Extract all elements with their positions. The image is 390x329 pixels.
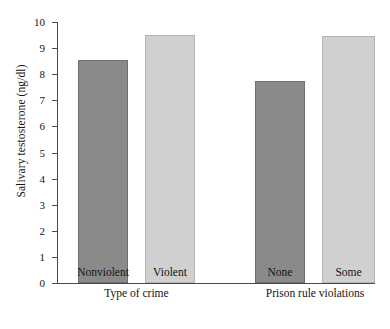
y-tick: 2: [52, 231, 57, 232]
y-tick-label: 9: [40, 43, 46, 54]
y-tick-label: 3: [40, 199, 46, 210]
group-label-1: Prison rule violations: [266, 287, 364, 299]
category-label-none: None: [268, 266, 293, 278]
bar-chart: Salivary testosterone (ng/dl) 0123456789…: [0, 0, 390, 329]
group-label-0: Type of crime: [104, 287, 168, 299]
y-axis-line: [57, 22, 58, 283]
y-tick: 0: [52, 283, 57, 284]
category-label-some: Some: [335, 266, 361, 278]
bar-violent: [145, 35, 195, 283]
y-tick: 4: [52, 179, 57, 180]
y-tick: 3: [52, 205, 57, 206]
y-tick: 6: [52, 126, 57, 127]
y-tick-label: 0: [40, 278, 46, 289]
y-tick: 5: [52, 153, 57, 154]
y-tick-label: 8: [40, 69, 46, 80]
bar-some: [322, 36, 375, 283]
y-tick: 8: [52, 74, 57, 75]
y-tick-label: 10: [34, 17, 45, 28]
y-tick-label: 2: [40, 225, 46, 236]
y-tick: 9: [52, 48, 57, 49]
category-label-nonviolent: Nonviolent: [77, 266, 129, 278]
y-tick-label: 5: [40, 147, 46, 158]
y-tick-label: 1: [40, 251, 46, 262]
y-tick-label: 6: [40, 121, 46, 132]
bar-nonviolent: [78, 60, 128, 283]
y-tick-label: 4: [40, 173, 46, 184]
y-tick: 10: [52, 22, 57, 23]
y-axis-title: Salivary testosterone (ng/dl): [15, 6, 27, 256]
y-tick: 1: [52, 257, 57, 258]
y-tick-label: 7: [40, 95, 46, 106]
plot-area: 012345678910: [57, 22, 375, 283]
x-axis-line: [57, 283, 375, 284]
y-tick: 7: [52, 100, 57, 101]
category-label-violent: Violent: [153, 266, 187, 278]
bar-none: [255, 81, 305, 283]
